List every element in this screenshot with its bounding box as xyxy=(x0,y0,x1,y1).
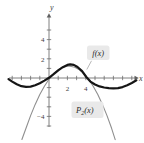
y-tick-label: 2 xyxy=(41,56,45,64)
x-axis-tick-labels: 24 xyxy=(66,85,88,93)
f-curve-label: f(x) xyxy=(92,48,104,58)
y-axis-label: y xyxy=(49,3,54,12)
f-curve xyxy=(9,64,137,88)
x-tick-label: 4 xyxy=(84,85,88,93)
figure-canvas: 24 42−4 x y f(x) P2(x) xyxy=(0,0,144,143)
f-label-leader-line xyxy=(87,61,92,70)
y-axis-tick-labels: 42−4 xyxy=(37,36,45,121)
y-axis-arrowhead-icon xyxy=(47,13,52,17)
y-tick-label: 4 xyxy=(41,36,45,44)
curves-group xyxy=(9,64,137,139)
y-tick-label: −4 xyxy=(37,113,45,121)
plot-svg: 24 42−4 x y f(x) P2(x) xyxy=(0,0,144,143)
x-tick-label: 2 xyxy=(66,85,70,93)
p2-label-args: (x) xyxy=(84,105,94,115)
x-axis-label: x xyxy=(138,74,143,83)
p2-curve-label: P2(x) xyxy=(75,105,94,116)
